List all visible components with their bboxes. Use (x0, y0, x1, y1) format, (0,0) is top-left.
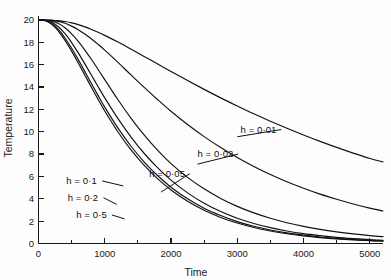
leader-line-4 (103, 198, 116, 205)
curve-series-4 (39, 20, 384, 241)
curve-label-4: h = 0·2 (68, 192, 99, 203)
y-tick-label: 12 (23, 104, 34, 115)
x-tick-label: 1000 (94, 248, 115, 259)
y-axis-tick-labels: 02468101214161820 (23, 14, 34, 249)
x-axis-tick-labels: 010002000300040005000 (36, 248, 380, 259)
y-tick-label: 14 (23, 81, 34, 92)
curve-series-group (39, 20, 384, 241)
x-axis-title: Time (185, 266, 208, 278)
x-axis-ticks (39, 238, 370, 244)
y-tick-label: 8 (29, 148, 34, 159)
y-axis-title: Temperature (2, 98, 14, 157)
x-tick-label: 5000 (359, 248, 380, 259)
y-tick-label: 2 (29, 216, 34, 227)
y-tick-label: 10 (23, 126, 34, 137)
x-tick-label: 3000 (227, 248, 248, 259)
y-tick-label: 18 (23, 37, 34, 48)
chart-figure: 02468101214161820 010002000300040005000 … (0, 0, 391, 280)
y-axis-ticks (39, 20, 44, 244)
curve-series-5 (39, 20, 384, 241)
y-tick-label: 4 (29, 193, 34, 204)
leader-line-5 (112, 215, 125, 219)
y-tick-label: 16 (23, 59, 34, 70)
x-tick-label: 0 (36, 248, 41, 259)
curve-series-2 (39, 20, 384, 237)
curve-label-3: h = 0·1 (66, 175, 97, 186)
curve-label-0: h = 0·01 (241, 124, 277, 135)
x-tick-label: 4000 (293, 248, 314, 259)
temperature-vs-time-line-chart: 02468101214161820 010002000300040005000 … (0, 0, 391, 280)
curve-label-1: h = 0·02 (198, 148, 234, 159)
curve-label-5: h = 0·5 (76, 209, 107, 220)
y-tick-label: 6 (29, 171, 34, 182)
curve-labels: h = 0·01h = 0·02h = 0·05h = 0·1h = 0·2h … (66, 124, 276, 221)
y-tick-label: 20 (23, 14, 34, 25)
curve-series-3 (39, 20, 384, 240)
leader-line-3 (102, 181, 123, 186)
curve-label-2: h = 0·05 (149, 168, 185, 179)
x-tick-label: 2000 (160, 248, 181, 259)
y-tick-label: 0 (29, 238, 34, 249)
